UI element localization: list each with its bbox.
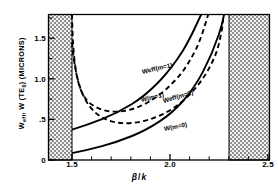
curve-w-m0 bbox=[72, 14, 224, 153]
x-axis-title: β/k bbox=[0, 172, 278, 182]
figure: Weff, W (TE0) (MICRONS) 0 .5 1.0 1.5 1.5… bbox=[0, 0, 278, 191]
data-curves bbox=[72, 14, 224, 153]
x-tick-2.0: 2.0 bbox=[150, 160, 190, 169]
right-forbidden-band bbox=[229, 15, 270, 161]
x-tick-1.5: 1.5 bbox=[52, 160, 92, 169]
shaded-regions bbox=[49, 15, 270, 161]
y-tick-1.5: 1.5 bbox=[12, 34, 46, 43]
x-tick-2.5: 2.5 bbox=[248, 160, 278, 169]
y-tick-1.0: 1.0 bbox=[12, 74, 46, 83]
x-axis-title-k: k bbox=[141, 172, 146, 182]
left-forbidden-band bbox=[49, 15, 73, 161]
curve-w-m1 bbox=[72, 14, 201, 130]
y-tick-0.5: .5 bbox=[12, 115, 46, 124]
